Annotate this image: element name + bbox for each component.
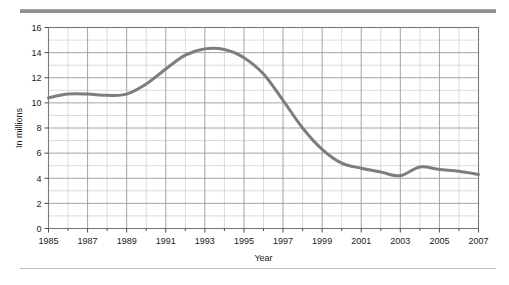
x-tick-label: 1995 bbox=[234, 236, 254, 246]
y-axis: 0246810121416 bbox=[31, 23, 48, 234]
y-tick-label: 0 bbox=[36, 224, 41, 234]
bottom-divider-rule bbox=[20, 268, 496, 269]
x-axis: 1985198719891991199319951997199920012003… bbox=[38, 229, 488, 246]
x-tick-label: 1987 bbox=[78, 236, 98, 246]
figure-container: 0246810121416198519871989199119931995199… bbox=[0, 0, 509, 285]
y-tick-label: 10 bbox=[31, 98, 41, 108]
y-tick-label: 8 bbox=[36, 123, 41, 133]
line-chart: 0246810121416198519871989199119931995199… bbox=[0, 0, 509, 285]
x-tick-label: 2003 bbox=[390, 236, 410, 246]
y-tick-label: 14 bbox=[31, 48, 41, 58]
x-tick-label: 1999 bbox=[312, 236, 332, 246]
x-tick-label: 1993 bbox=[195, 236, 215, 246]
y-tick-label: 2 bbox=[36, 199, 41, 209]
y-tick-label: 12 bbox=[31, 73, 41, 83]
x-tick-label: 1997 bbox=[273, 236, 293, 246]
y-axis-title: In millions bbox=[14, 107, 24, 148]
y-tick-label: 16 bbox=[31, 23, 41, 33]
x-tick-label: 2001 bbox=[351, 236, 371, 246]
x-tick-label: 2007 bbox=[468, 236, 488, 246]
x-tick-label: 2005 bbox=[429, 236, 449, 246]
x-tick-label: 1991 bbox=[156, 236, 176, 246]
y-tick-label: 4 bbox=[36, 174, 41, 184]
x-tick-label: 1985 bbox=[38, 236, 58, 246]
chart-plot-wrapper: 0246810121416198519871989199119931995199… bbox=[0, 0, 509, 285]
x-axis-title: Year bbox=[254, 253, 272, 263]
y-tick-label: 6 bbox=[36, 148, 41, 158]
x-tick-label: 1989 bbox=[117, 236, 137, 246]
